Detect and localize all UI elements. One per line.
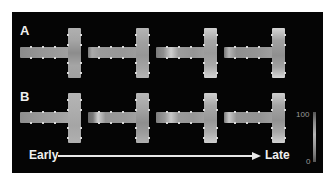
electrode-marker bbox=[166, 111, 168, 113]
electrode-marker bbox=[42, 111, 44, 113]
horizontal-arm bbox=[224, 47, 274, 58]
electrode-marker bbox=[271, 127, 273, 129]
electrode-marker bbox=[216, 99, 218, 101]
electrode-marker bbox=[80, 34, 82, 36]
electrode-marker bbox=[42, 46, 44, 48]
electrode-marker bbox=[216, 44, 218, 46]
electrode-marker bbox=[271, 109, 273, 111]
timeline-arrow-line bbox=[58, 155, 254, 157]
electrode-marker bbox=[67, 72, 69, 74]
electrode-marker bbox=[166, 122, 168, 124]
horizontal-arm bbox=[88, 47, 138, 58]
electrode-marker bbox=[178, 46, 180, 48]
electrode-marker bbox=[122, 57, 124, 59]
electrode-marker bbox=[216, 72, 218, 74]
electrode-marker bbox=[216, 109, 218, 111]
colorbar-min-label: 0 bbox=[306, 158, 310, 166]
t-shape-a4 bbox=[224, 28, 286, 78]
electrode-marker bbox=[122, 122, 124, 124]
electrode-marker bbox=[216, 137, 218, 139]
electrode-marker bbox=[284, 99, 286, 101]
electrode-marker bbox=[148, 72, 150, 74]
electrode-marker bbox=[135, 99, 137, 101]
horizontal-arm bbox=[156, 47, 206, 58]
electrode-marker bbox=[284, 62, 286, 64]
horizontal-arm bbox=[20, 47, 70, 58]
electrode-marker bbox=[166, 57, 168, 59]
electrode-marker bbox=[203, 34, 205, 36]
electrode-marker bbox=[258, 122, 260, 124]
electrode-marker bbox=[203, 44, 205, 46]
horizontal-arm bbox=[20, 112, 70, 123]
electrode-marker bbox=[271, 99, 273, 101]
electrode-marker bbox=[234, 57, 236, 59]
electrode-marker bbox=[148, 62, 150, 64]
electrode-marker bbox=[284, 109, 286, 111]
electrode-marker bbox=[234, 122, 236, 124]
t-shape-a2 bbox=[88, 28, 150, 78]
electrode-marker bbox=[190, 46, 192, 48]
electrode-marker bbox=[258, 111, 260, 113]
electrode-marker bbox=[30, 111, 32, 113]
electrode-marker bbox=[148, 127, 150, 129]
electrode-marker bbox=[98, 122, 100, 124]
electrode-marker bbox=[67, 137, 69, 139]
electrode-marker bbox=[110, 46, 112, 48]
electrode-marker bbox=[122, 111, 124, 113]
electrode-marker bbox=[203, 109, 205, 111]
colorbar bbox=[313, 112, 316, 162]
horizontal-arm bbox=[224, 112, 274, 123]
electrode-marker bbox=[135, 44, 137, 46]
electrode-marker bbox=[216, 62, 218, 64]
electrode-marker bbox=[135, 72, 137, 74]
electrode-marker bbox=[246, 111, 248, 113]
electrode-marker bbox=[80, 127, 82, 129]
electrode-marker bbox=[135, 137, 137, 139]
electrode-marker bbox=[246, 122, 248, 124]
electrode-marker bbox=[258, 57, 260, 59]
electrode-marker bbox=[110, 111, 112, 113]
electrode-marker bbox=[246, 46, 248, 48]
electrode-marker bbox=[284, 72, 286, 74]
electrode-marker bbox=[80, 44, 82, 46]
electrode-marker bbox=[203, 137, 205, 139]
electrode-marker bbox=[67, 44, 69, 46]
electrode-marker bbox=[110, 122, 112, 124]
electrode-marker bbox=[54, 57, 56, 59]
electrode-marker bbox=[271, 137, 273, 139]
electrode-marker bbox=[80, 137, 82, 139]
electrode-marker bbox=[98, 111, 100, 113]
figure-panel: A B Early Late 100 0 bbox=[12, 12, 323, 173]
electrode-marker bbox=[166, 46, 168, 48]
electrode-marker bbox=[30, 122, 32, 124]
electrode-marker bbox=[67, 99, 69, 101]
electrode-marker bbox=[67, 109, 69, 111]
electrode-marker bbox=[148, 137, 150, 139]
electrode-marker bbox=[284, 127, 286, 129]
t-shape-a3 bbox=[156, 28, 218, 78]
electrode-marker bbox=[271, 34, 273, 36]
electrode-marker bbox=[67, 62, 69, 64]
electrode-marker bbox=[42, 57, 44, 59]
electrode-marker bbox=[203, 127, 205, 129]
electrode-marker bbox=[284, 137, 286, 139]
electrode-marker bbox=[80, 99, 82, 101]
electrode-marker bbox=[190, 122, 192, 124]
electrode-marker bbox=[216, 34, 218, 36]
electrode-marker bbox=[80, 72, 82, 74]
electrode-marker bbox=[178, 57, 180, 59]
horizontal-arm bbox=[88, 112, 138, 123]
electrode-marker bbox=[98, 46, 100, 48]
electrode-marker bbox=[135, 127, 137, 129]
timeline-end-label: Late bbox=[265, 149, 290, 161]
timeline-start-label: Early bbox=[29, 149, 58, 161]
electrode-marker bbox=[148, 99, 150, 101]
colorbar-max-label: 100 bbox=[296, 111, 309, 119]
electrode-marker bbox=[42, 122, 44, 124]
electrode-marker bbox=[80, 62, 82, 64]
electrode-marker bbox=[271, 44, 273, 46]
electrode-marker bbox=[203, 99, 205, 101]
electrode-marker bbox=[98, 57, 100, 59]
electrode-marker bbox=[271, 72, 273, 74]
electrode-marker bbox=[148, 34, 150, 36]
